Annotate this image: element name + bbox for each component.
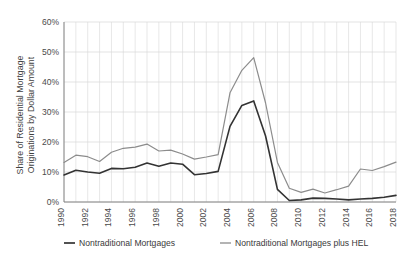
y-tick-label: 0% xyxy=(47,197,60,207)
legend-label[interactable]: Nontraditional Mortgages plus HEL xyxy=(235,238,368,248)
x-tick-label: 2008 xyxy=(269,208,279,227)
x-tick-label: 1996 xyxy=(127,208,137,227)
y-axis-label-line2: Originations by Dollar Amount xyxy=(26,56,36,173)
x-tick-label: 1994 xyxy=(103,208,113,227)
x-tick-label: 2004 xyxy=(222,208,232,227)
y-axis-label: Share of Residential Mortgage Originatio… xyxy=(15,55,36,174)
x-tick-label: 2000 xyxy=(175,208,185,227)
y-tick-label: 40% xyxy=(42,77,59,87)
y-tick-label: 30% xyxy=(42,107,59,117)
y-axis-tick-labels: 0%10%20%30%40%50%60% xyxy=(42,17,59,207)
x-tick-label: 2014 xyxy=(341,208,351,227)
x-tick-label: 2010 xyxy=(293,208,303,227)
y-tick-label: 60% xyxy=(42,17,59,27)
x-tick-label: 2016 xyxy=(364,208,374,227)
x-tick-label: 2002 xyxy=(198,208,208,227)
y-axis-label-line1: Share of Residential Mortgage xyxy=(15,55,25,174)
x-tick-label: 2012 xyxy=(317,208,327,227)
legend-label[interactable]: Nontraditional Mortgages xyxy=(79,238,175,248)
chart-legend: Nontraditional MortgagesNontraditional M… xyxy=(64,238,368,248)
line-chart: Share of Residential Mortgage Originatio… xyxy=(0,0,402,263)
y-tick-label: 10% xyxy=(42,167,59,177)
x-tick-label: 1992 xyxy=(80,208,90,227)
chart-container: Share of Residential Mortgage Originatio… xyxy=(0,0,402,263)
y-tick-label: 50% xyxy=(42,47,59,57)
x-tick-label: 2018 xyxy=(388,208,398,227)
x-tick-label: 2006 xyxy=(246,208,256,227)
x-axis-tick-labels: 1990199219941996199820002002200420062008… xyxy=(56,208,398,227)
x-tick-label: 1998 xyxy=(151,208,161,227)
x-tick-label: 1990 xyxy=(56,208,66,227)
y-tick-label: 20% xyxy=(42,137,59,147)
